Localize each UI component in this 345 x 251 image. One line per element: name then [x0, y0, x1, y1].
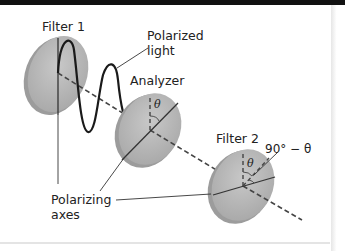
label-polarized-line-1: Polarized [147, 28, 204, 43]
label-filter-1: Filter 1 [42, 19, 85, 34]
leader-polarized-light [117, 48, 148, 68]
label-polarizing-axes-line-2: axes [51, 207, 80, 222]
polarization-diagram: θ θ Filter 1 Polarized light Analyzer Fi… [0, 0, 345, 251]
label-polarized-line-2: light [147, 43, 175, 58]
leader-axes-analyzer [100, 158, 124, 191]
theta-analyzer: θ [154, 98, 161, 111]
filter-1-disk [13, 27, 98, 123]
analyzer-disk [103, 83, 193, 179]
theta-filter-2: θ [247, 157, 254, 170]
leader-axes-filter-2 [116, 194, 211, 200]
label-filter-2: Filter 2 [216, 131, 259, 146]
label-polarizing-axes-line-1: Polarizing [51, 192, 111, 207]
label-analyzer: Analyzer [130, 73, 185, 88]
label-angle-complement: 90° − θ [265, 142, 311, 156]
